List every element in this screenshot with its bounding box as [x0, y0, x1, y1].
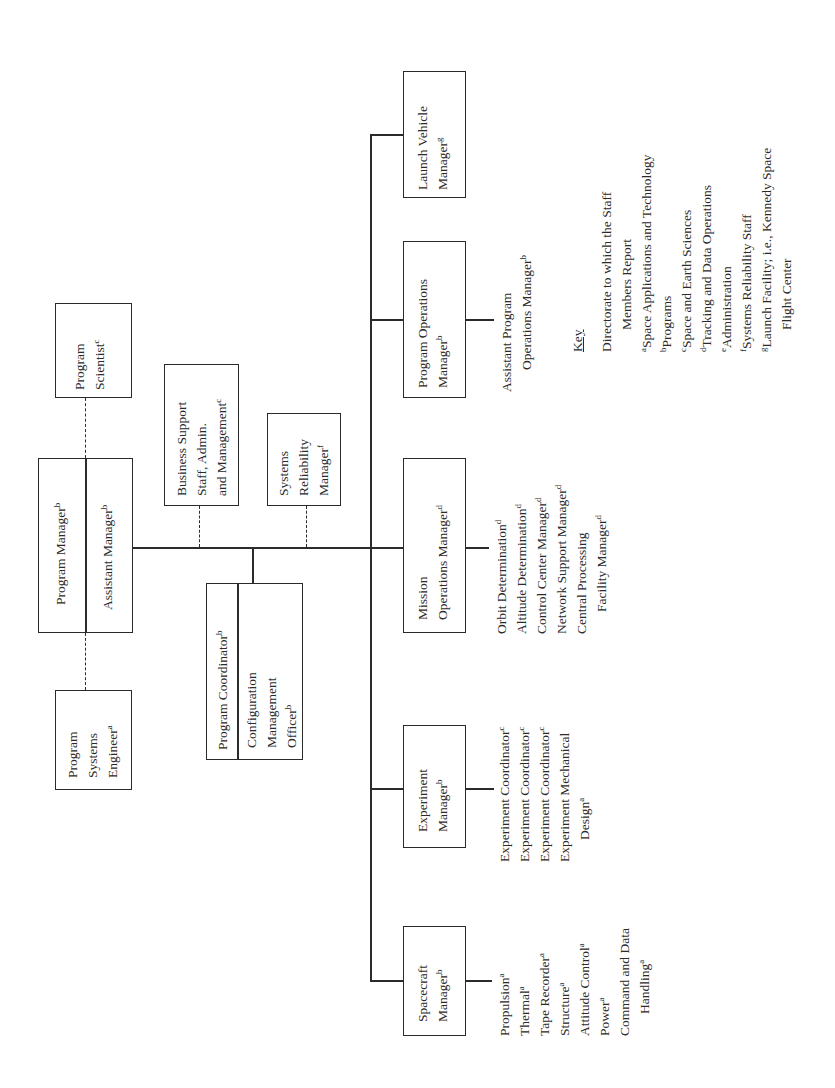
coordinator-connector: [252, 547, 254, 583]
spacecraft-connector: [370, 980, 403, 982]
mission-operations-subitems: Orbit Determinationd Altitude Determinat…: [492, 485, 612, 634]
key-legend: Directorate to which the Staff Members R…: [597, 148, 797, 352]
main-trunk-line: [132, 547, 403, 549]
spacecraft-subitems: Propulsiona Thermala Tape Recordera Stru…: [495, 928, 655, 1036]
mission-operations-sub-connector: [466, 547, 489, 549]
systems-reliability-label: Systems Reliability Managerf: [274, 439, 334, 496]
dashed-connector-business-support: [199, 506, 200, 547]
experiment-sub-connector: [466, 788, 494, 790]
experiment-connector: [370, 788, 403, 790]
spacecraft-sub-connector: [466, 980, 492, 982]
assistant-manager-label: Assistant Managerb: [98, 505, 118, 610]
dashed-connector-systems-reliability: [306, 506, 307, 547]
program-manager-divider: [85, 458, 87, 633]
program-operations-sub-connector: [466, 319, 494, 321]
program-scientist-label: Program Scientistc: [70, 340, 110, 391]
dashed-connector-engineer: [85, 633, 86, 690]
mission-operations-label: Mission Operations Managerd: [413, 505, 453, 620]
program-operations-subitems: Assistant Program Operations Managerb: [497, 255, 537, 392]
program-operations-connector: [370, 319, 403, 321]
program-operations-label: Program Operations Managerb: [413, 279, 453, 388]
launch-vehicle-label: Launch Vehicle Managerg: [413, 106, 453, 190]
business-support-label: Business Support Staff, Admin. and Manag…: [172, 399, 232, 496]
dashed-connector-scientist: [85, 398, 86, 458]
program-coordinator-divider: [237, 583, 239, 760]
line-manager-bus: [370, 134, 372, 981]
spacecraft-manager-label: Spacecraft Managerb: [413, 965, 453, 1022]
launch-vehicle-connector: [370, 134, 403, 136]
experiment-subitems: Experiment Coordinatorc Experiment Coord…: [495, 726, 595, 862]
program-systems-engineer-label: Program Systems Engineera: [63, 725, 123, 778]
program-manager-label: Program Managerb: [51, 503, 71, 605]
config-mgmt-officer-label: Configuration Management Officerb: [242, 672, 302, 748]
experiment-manager-label: Experiment Managerb: [413, 769, 453, 832]
program-coordinator-label: Program Coordinatorb: [213, 630, 233, 750]
key-title: Key: [568, 330, 588, 353]
